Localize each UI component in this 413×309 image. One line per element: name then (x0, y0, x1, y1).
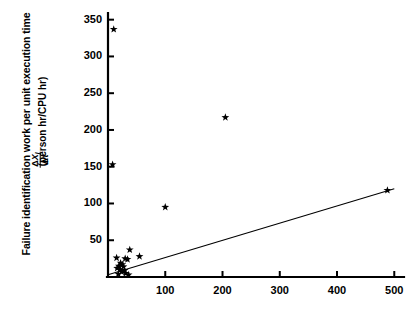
data-point-marker (221, 113, 229, 120)
data-point-marker (113, 254, 121, 261)
data-point-marker (110, 25, 118, 32)
plot-canvas (0, 0, 413, 309)
data-point-marker (384, 186, 392, 193)
regression-line (108, 189, 394, 275)
data-points (109, 25, 392, 278)
data-point-marker (126, 246, 134, 253)
data-point-marker (161, 203, 169, 210)
figure-scatter-plot: Failure identification work per unit exe… (0, 0, 413, 309)
fit-line (108, 189, 394, 275)
data-point-marker (136, 252, 144, 259)
axis-lines (107, 13, 404, 277)
